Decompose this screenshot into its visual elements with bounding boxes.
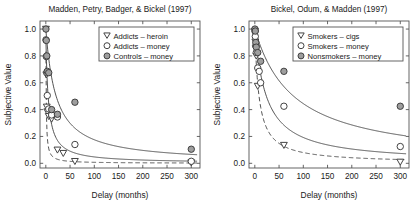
marker-open-circle (397, 143, 403, 149)
x-tick-label: 50 (275, 172, 285, 181)
y-tick-label: 0.4 (234, 106, 246, 115)
y-tick-label: 0.0 (25, 159, 37, 168)
x-tick-label: 200 (136, 172, 150, 181)
legend-label: Smokers – money (308, 42, 369, 51)
marker-filled-circle (43, 37, 49, 43)
marker-filled-circle (397, 103, 403, 109)
y-tick-label: 0.8 (234, 52, 246, 61)
x-tick-label: 300 (184, 172, 198, 181)
legend-marker-filled-circle (298, 53, 304, 59)
two-panel-discounting-figure: Madden, Petry, Badger, & Bickel (1997)05… (0, 0, 418, 218)
y-tick-label: 0.6 (234, 79, 246, 88)
y-tick-label: 0.8 (25, 52, 37, 61)
marker-open-circle (72, 141, 78, 147)
x-tick-label: 100 (87, 172, 101, 181)
y-axis-label: Subjective Value (3, 63, 13, 125)
marker-open-circle (257, 80, 263, 86)
x-tick-label: 300 (393, 172, 407, 181)
legend-label: Addicts – money (114, 42, 170, 51)
marker-open-circle (256, 68, 262, 74)
y-tick-label: 1.0 (25, 25, 37, 34)
marker-filled-circle (48, 106, 54, 112)
marker-filled-circle (252, 28, 258, 34)
y-tick-label: 0.6 (25, 79, 37, 88)
legend-label: Nonsmokers – money (308, 52, 382, 61)
marker-open-circle (281, 103, 287, 109)
panel-madden-1997: Madden, Petry, Badger, & Bickel (1997)05… (0, 0, 209, 218)
x-tick-label: 250 (369, 172, 383, 181)
y-tick-label: 0.2 (25, 132, 37, 141)
marker-filled-circle (46, 69, 52, 75)
y-tick-label: 0.0 (234, 159, 246, 168)
marker-filled-circle (54, 111, 60, 117)
legend-label: Addicts – heroin (114, 32, 168, 41)
y-tick-label: 1.0 (234, 25, 246, 34)
marker-filled-circle (188, 146, 194, 152)
panel-title: Bickel, Odum, & Madden (1997) (271, 5, 388, 14)
x-tick-label: 50 (66, 172, 76, 181)
x-tick-label: 100 (296, 172, 310, 181)
x-tick-label: 200 (345, 172, 359, 181)
marker-filled-circle (255, 49, 261, 55)
marker-filled-circle (44, 53, 50, 59)
marker-filled-circle (43, 26, 49, 32)
legend-marker-filled-circle (104, 53, 110, 59)
marker-filled-circle (257, 58, 263, 64)
x-tick-label: 150 (321, 172, 335, 181)
legend-label: Controls – money (114, 52, 174, 61)
marker-triangle (60, 150, 67, 156)
x-tick-label: 150 (112, 172, 126, 181)
panel-bickel-1997: Bickel, Odum, & Madden (1997)05010015020… (209, 0, 418, 218)
x-tick-label: 0 (44, 172, 49, 181)
x-tick-label: 250 (160, 172, 174, 181)
legend-label: Smokers – cigs (308, 32, 360, 41)
x-tick-label: 0 (253, 172, 258, 181)
marker-triangle (397, 159, 404, 165)
legend-marker-open-circle (104, 43, 110, 49)
fit-curve (46, 52, 197, 163)
y-tick-label: 0.2 (234, 132, 246, 141)
marker-open-circle (188, 158, 194, 164)
panel-title: Madden, Petry, Badger, & Bickel (1997) (48, 5, 191, 14)
legend-marker-open-circle (298, 43, 304, 49)
y-axis-label: Subjective Value (212, 63, 222, 125)
x-axis-label: Delay (months) (301, 190, 358, 200)
y-tick-label: 0.4 (25, 106, 37, 115)
marker-filled-circle (72, 99, 78, 105)
marker-open-circle (44, 92, 50, 98)
x-axis-label: Delay (months) (92, 190, 149, 200)
marker-filled-circle (281, 68, 287, 74)
